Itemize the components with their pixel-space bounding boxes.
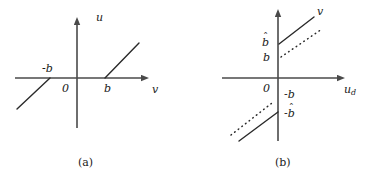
hat-accent: ˆ <box>289 103 294 113</box>
panel-a: u v 0 -b b (a) <box>0 0 192 183</box>
y-axis-label-a: u <box>96 12 103 23</box>
panel-a-plot <box>0 0 192 183</box>
tick-label-b-hat-positive: ˆb <box>262 37 269 48</box>
caption-a: (a) <box>78 156 93 169</box>
inverse-deadzone-lower-solid <box>239 112 278 141</box>
inverse-deadzone-lower-dotted <box>231 103 272 135</box>
b-hat-glyph-positive: ˆb <box>262 37 269 48</box>
tick-label-b-hat-negative: -ˆb <box>284 108 295 119</box>
tick-label-pos-b-a: b <box>104 83 111 94</box>
caption-b: (b) <box>275 156 291 169</box>
figure-container: u v 0 -b b (a) v <box>0 0 384 183</box>
panel-b: v ud 0 ˆb b -b -ˆb (b) <box>192 0 384 183</box>
x-axis-label-a: v <box>152 84 158 95</box>
origin-label-a: 0 <box>62 83 69 94</box>
b-hat-glyph-negative: ˆb <box>288 108 295 119</box>
tick-label-b-negative: -b <box>284 89 295 100</box>
origin-label-b: 0 <box>263 83 270 94</box>
hat-accent: ˆ <box>263 32 268 42</box>
tick-label-neg-b-a: -b <box>42 63 53 74</box>
deadzone-left-branch <box>17 78 50 109</box>
tick-label-b-positive: b <box>263 52 270 63</box>
deadzone-right-branch <box>105 43 139 78</box>
inverse-deadzone-upper-solid <box>279 17 314 44</box>
inverse-deadzone-upper-dotted <box>281 29 322 57</box>
y-axis-label-b: v <box>317 6 323 17</box>
x-axis-label-b-subscript: d <box>351 88 356 97</box>
x-axis-label-b: ud <box>344 84 356 97</box>
